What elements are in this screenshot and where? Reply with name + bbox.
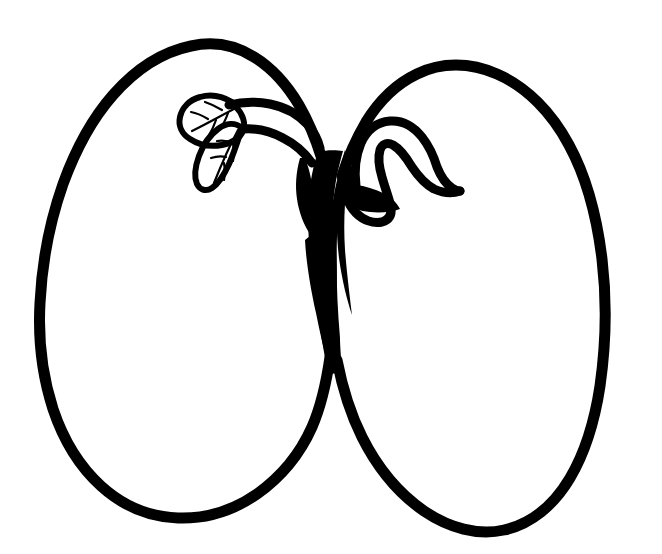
illustration-canvas: Germinating bean seed line drawing sprou… xyxy=(0,0,662,554)
leaf-lower-vein-4 xyxy=(224,163,225,180)
leaf-lower-vein-3 xyxy=(233,142,234,161)
bean-sprout-drawing xyxy=(0,0,662,554)
